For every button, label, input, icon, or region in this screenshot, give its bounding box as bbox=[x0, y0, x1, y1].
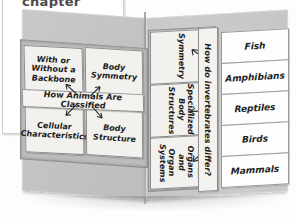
arrow-to-backbone bbox=[66, 84, 78, 95]
arrow-group-left bbox=[20, 39, 146, 166]
foldable-board-illustration: chapter With or Without a Backbone Body … bbox=[0, 0, 296, 217]
card-amphibians[interactable]: Amphibians bbox=[221, 59, 289, 95]
card-fish[interactable]: Fish bbox=[221, 28, 289, 64]
card-mammals[interactable]: Mammals bbox=[221, 152, 289, 188]
card-reptiles[interactable]: Reptiles bbox=[221, 90, 289, 126]
card-birds[interactable]: Birds bbox=[221, 121, 289, 157]
arrow-to-cellular bbox=[66, 104, 76, 116]
arrow-to-structure bbox=[92, 106, 102, 118]
left-panel-group: With or Without a Backbone Body Symmetry… bbox=[20, 39, 146, 166]
board-drop-shadow bbox=[18, 196, 290, 212]
card-how-do-invertebrates-differ[interactable]: How do invertebrates differ? bbox=[198, 27, 218, 192]
arrow-to-symmetry bbox=[90, 86, 100, 97]
right-panel-group: Fish Amphibians Reptiles Birds Mammals bbox=[221, 26, 287, 190]
chapter-heading: chapter bbox=[22, 0, 112, 8]
question-label: How do invertebrates differ? bbox=[203, 43, 213, 176]
